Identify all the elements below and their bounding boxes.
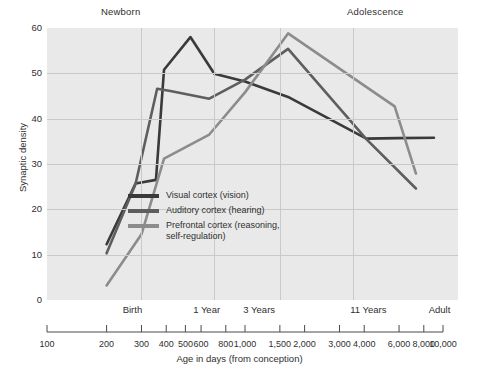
gridline-horizontal [47,73,458,74]
gridline-vertical [353,28,354,300]
x-axis-scale [0,322,479,338]
legend-item[interactable]: Prefrontal cortex (reasoning, self-regul… [128,220,280,242]
legend-label: Prefrontal cortex (reasoning, self-regul… [166,220,280,242]
gridline-vertical [280,28,281,300]
legend-color-swatch [128,194,159,198]
stage-label: 1 Year [193,304,220,315]
gridline-horizontal [47,255,458,256]
y-tick-label: 40 [16,114,42,124]
era-label-adolescence: Adolescence [347,6,404,17]
y-tick-label: 10 [16,250,42,260]
x-tick-label: 600 [194,339,209,349]
stage-label: Birth [123,304,143,315]
x-tick-label: 300 [134,339,149,349]
stage-label: Adult [429,304,451,315]
gridline-vertical [141,28,142,300]
y-tick-label: 0 [16,295,42,305]
x-tick-label: 1,000 [234,339,257,349]
chart-legend: Visual cortex (vision)Auditory cortex (h… [128,190,280,245]
y-tick-label: 50 [16,68,42,78]
y-tick-label: 20 [16,204,42,214]
x-tick-label: 3,000 [328,339,351,349]
y-axis-ticks: 0102030405060 [12,0,42,368]
synaptic-density-chart: Newborn Adolescence Synaptic density 010… [0,0,479,368]
legend-item[interactable]: Auditory cortex (hearing) [128,205,280,217]
x-tick-label: 6,000 [388,339,411,349]
x-axis-title: Age in days (from conception) [0,353,479,364]
x-tick-label: 800 [218,339,233,349]
x-tick-label: 4,000 [353,339,376,349]
legend-color-swatch [128,209,159,213]
era-label-newborn: Newborn [101,6,140,17]
x-tick-label: 1,500 [269,339,292,349]
series-line [107,33,416,285]
x-tick-label: 100 [39,339,54,349]
x-tick-label: 400 [159,339,174,349]
y-tick-label: 30 [16,159,42,169]
legend-label: Visual cortex (vision) [166,190,249,201]
gridline-vertical [214,28,215,300]
legend-color-swatch [128,224,159,228]
x-tick-label: 500 [178,339,193,349]
stage-label: 11 Years [350,304,386,315]
x-tick-label: 200 [99,339,114,349]
stage-label: 3 Years [243,304,275,315]
gridline-horizontal [47,119,458,120]
legend-item[interactable]: Visual cortex (vision) [128,190,280,202]
y-tick-label: 60 [16,23,42,33]
x-tick-label: 2,000 [293,339,316,349]
legend-label: Auditory cortex (hearing) [166,205,265,216]
gridline-horizontal [47,164,458,165]
x-tick-label: 10,000 [429,339,457,349]
plot-area [47,28,458,300]
